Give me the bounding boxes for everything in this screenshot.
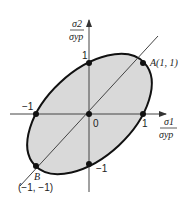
point-origin	[86, 111, 92, 117]
tick-origin: 0	[93, 118, 99, 129]
tick-x-neg: −1	[22, 101, 34, 112]
point-x-pos	[140, 111, 146, 117]
tick-x-pos: 1	[142, 118, 148, 129]
label-B: B	[34, 171, 40, 182]
y-axis-label-num: σ2	[72, 18, 82, 29]
y-axis-label-den: σyp	[69, 31, 83, 42]
point-y-neg	[86, 161, 92, 167]
x-axis-label-den: σyp	[159, 129, 173, 140]
point-x-neg	[33, 111, 39, 117]
label-B-coords: (−1, −1)	[18, 182, 53, 193]
label-A: A(1, 1)	[149, 57, 178, 69]
tick-y-pos: 1	[82, 50, 88, 61]
x-axis-label-num: σ1	[164, 116, 174, 127]
point-B	[33, 163, 39, 169]
yield-ellipse-diagram: 1 −1 0 1 −1 A(1, 1) B (−1, −1) σ2 σyp σ1…	[0, 0, 191, 199]
point-A	[140, 60, 146, 66]
tick-y-neg: −1	[96, 163, 108, 174]
